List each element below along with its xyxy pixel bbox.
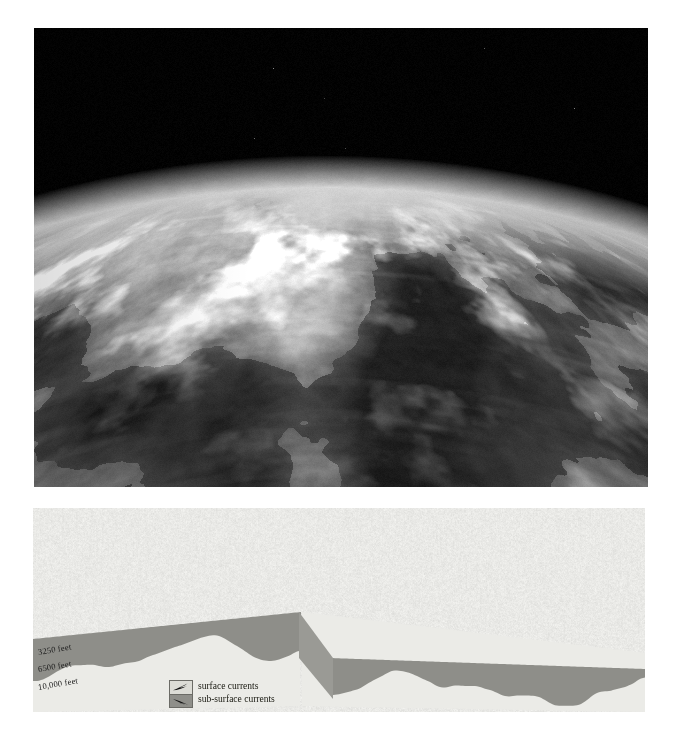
subsurface-current-arrow-icon — [170, 695, 192, 708]
surface-current-arrow-icon — [170, 681, 192, 695]
ocean-currents-diagram-image — [33, 508, 645, 712]
ocean-currents-block-diagram: 3250 feet 6500 feet 10,000 feet surface … — [33, 508, 645, 712]
legend-swatch-group — [169, 680, 193, 708]
legend: surface currents sub-surface currents — [169, 680, 275, 708]
legend-label-subsurface-currents: sub-surface currents — [198, 693, 275, 706]
legend-label-group: surface currents sub-surface currents — [198, 680, 275, 706]
satellite-photograph — [34, 28, 648, 487]
satellite-photograph-image — [34, 28, 648, 487]
legend-label-surface-currents: surface currents — [198, 680, 275, 693]
